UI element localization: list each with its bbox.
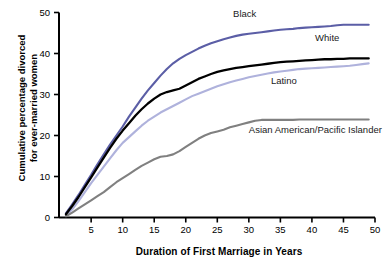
x-tick-label: 50 — [360, 224, 390, 235]
series-label-black: Black — [233, 8, 256, 19]
series-label-asian: Asian American/Pacific Islander — [249, 124, 382, 135]
y-axis-title-line1: Cumulative percentage divorced — [16, 8, 28, 208]
chart-axes — [54, 13, 375, 223]
series-line-white — [66, 58, 369, 214]
x-tick-label: 45 — [328, 224, 358, 235]
chart-series-group — [66, 25, 369, 216]
y-axis-title-line2: for ever-married women — [28, 8, 40, 208]
series-label-white: White — [315, 32, 339, 43]
y-axis-title: Cumulative percentage divorced for ever-… — [16, 8, 40, 208]
x-tick-label: 40 — [297, 224, 327, 235]
x-tick-label: 20 — [171, 224, 201, 235]
x-tick-label: 25 — [202, 224, 232, 235]
x-axis-title: Duration of First Marriage in Years — [59, 246, 379, 257]
series-line-latino — [66, 63, 369, 216]
y-tick-label: 0 — [24, 212, 50, 223]
x-tick-label: 15 — [139, 224, 169, 235]
x-tick-label: 35 — [265, 224, 295, 235]
x-tick-label: 30 — [234, 224, 264, 235]
x-tick-label: 10 — [108, 224, 138, 235]
x-tick-label: 5 — [76, 224, 106, 235]
chart-figure: 5101520253035404550 01020304050 Duration… — [0, 0, 392, 269]
series-label-latino: Latino — [271, 75, 297, 86]
